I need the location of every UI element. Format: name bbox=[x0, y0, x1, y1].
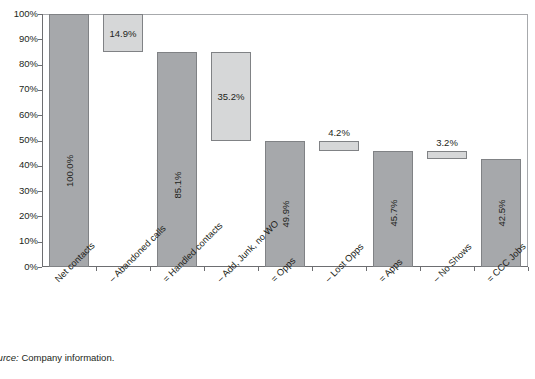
x-axis-tick-mark bbox=[528, 267, 529, 271]
x-axis-tick-mark bbox=[204, 267, 205, 271]
x-axis-tick-mark bbox=[366, 267, 367, 271]
x-axis-category-label: Net contacts bbox=[53, 240, 97, 284]
x-axis-tick-mark bbox=[474, 267, 475, 271]
x-axis-tick-mark bbox=[420, 267, 421, 271]
source-note-prefix: Source: bbox=[0, 352, 19, 363]
x-axis-category-label: = CCC Jobs bbox=[485, 241, 528, 284]
x-axis-tick-mark bbox=[150, 267, 151, 271]
x-axis-tick-mark bbox=[312, 267, 313, 271]
x-axis-category-label: = Apps bbox=[377, 257, 405, 285]
x-axis-category-label: – No Shows bbox=[431, 242, 474, 285]
x-axis-tick-mark bbox=[258, 267, 259, 271]
x-axis-tick-mark bbox=[96, 267, 97, 271]
waterfall-chart: 100%90%80%70%60%50%40%30%20%10%0% 100.0%… bbox=[0, 0, 535, 379]
source-note-text: Company information. bbox=[19, 352, 115, 363]
source-note: Source: Company information. bbox=[0, 352, 114, 364]
x-axis-category-label: – Lost Opps bbox=[323, 242, 366, 285]
x-axis-labels: Net contacts– Abandoned calls= Handled c… bbox=[0, 0, 535, 379]
x-axis-category-label: – Abandoned calls bbox=[107, 223, 169, 285]
x-axis-category-label: = Opps bbox=[269, 256, 298, 285]
